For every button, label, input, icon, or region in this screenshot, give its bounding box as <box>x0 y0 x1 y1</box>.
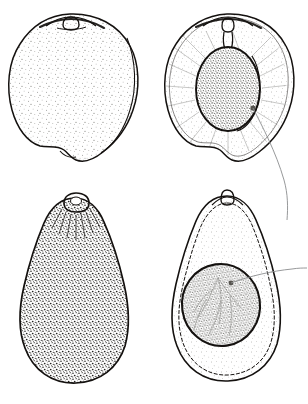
illustration-plate: Fruit morphology plate pen-and-ink stipp… <box>0 0 308 404</box>
pear-fruit-stem-scar-center <box>71 197 82 205</box>
plate-canvas <box>0 0 308 404</box>
